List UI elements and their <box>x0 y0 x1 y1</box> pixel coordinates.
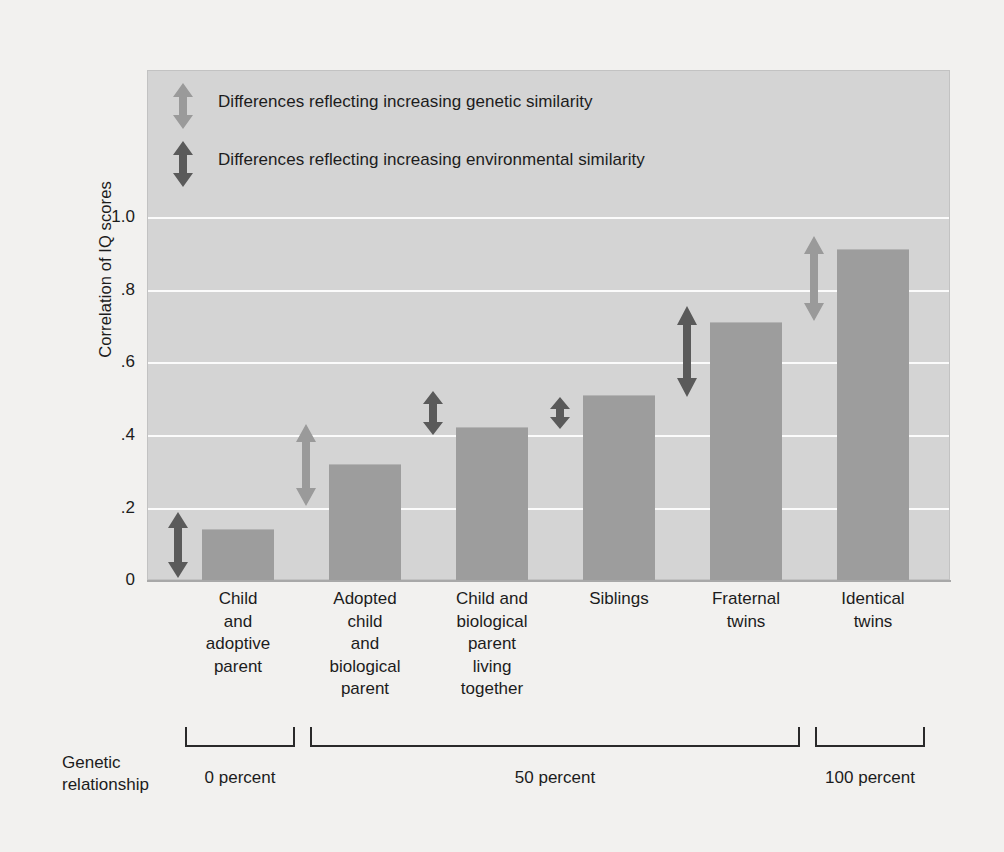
y-tick-2: .8 <box>89 280 135 300</box>
legend-label-genetic: Differences reflecting increasing geneti… <box>218 92 593 112</box>
y-tick-3: .6 <box>89 352 135 372</box>
legend-item-genetic: Differences reflecting increasing geneti… <box>170 78 870 136</box>
bar-group-5 <box>837 249 909 580</box>
bracket-50-percent <box>310 727 800 747</box>
bar-group-3 <box>583 395 655 580</box>
bar-group-1 <box>329 464 401 580</box>
x-axis-categories: Childandadoptiveparent Adoptedchildandbi… <box>147 588 950 718</box>
y-tick-4: .4 <box>89 425 135 445</box>
double-arrow-light-icon <box>170 82 196 130</box>
legend-item-environmental: Differences reflecting increasing enviro… <box>170 136 870 194</box>
category-label-0: Childandadoptiveparent <box>174 588 302 678</box>
y-tick-5: .2 <box>89 498 135 518</box>
category-label-1: Adoptedchildandbiologicalparent <box>301 588 429 701</box>
genetic-arrow-fraternal-identical <box>801 235 827 322</box>
bar-identical-twins <box>837 249 909 580</box>
category-label-3: Siblings <box>555 588 683 611</box>
bar-group-4 <box>710 322 782 580</box>
chart-figure: Correlation of IQ scores 1.0 .8 .6 .4 .2… <box>0 0 1004 852</box>
genetic-relationship-label: Geneticrelationship <box>62 752 149 796</box>
bar-child-and-biological-parent-living-together <box>456 427 528 580</box>
category-label-2: Child andbiologicalparentlivingtogether <box>428 588 556 701</box>
percent-label-2: 100 percent <box>807 768 933 788</box>
y-axis-ticks: 1.0 .8 .6 .4 .2 0 <box>85 0 135 852</box>
environmental-arrow-child-adoptive <box>165 511 191 579</box>
genetic-relationship-values: 0 percent 50 percent 100 percent <box>147 768 950 796</box>
bar-fraternal-twins <box>710 322 782 580</box>
bracket-100-percent <box>815 727 925 747</box>
legend: Differences reflecting increasing geneti… <box>170 78 870 194</box>
bar-group-0 <box>202 529 274 580</box>
bar-child-and-adoptive-parent <box>202 529 274 580</box>
bracket-0-percent <box>185 727 295 747</box>
double-arrow-dark-icon <box>170 140 196 188</box>
legend-label-environmental: Differences reflecting increasing enviro… <box>218 150 645 170</box>
environmental-arrow-fraternal <box>674 305 700 398</box>
category-label-5: Identicaltwins <box>809 588 937 633</box>
environmental-arrow-siblings <box>547 396 573 430</box>
y-tick-6: 0 <box>89 570 135 590</box>
genetic-relationship-brackets <box>147 727 950 751</box>
bar-siblings <box>583 395 655 580</box>
percent-label-1: 50 percent <box>495 768 615 788</box>
percent-label-0: 0 percent <box>180 768 300 788</box>
genetic-arrow-adopted-child <box>293 423 319 507</box>
category-label-4: Fraternaltwins <box>682 588 810 633</box>
environmental-arrow-child-biological <box>420 390 446 436</box>
bar-adopted-child-and-biological-parent <box>329 464 401 580</box>
y-tick-1: 1.0 <box>89 207 135 227</box>
bar-group-2 <box>456 427 528 580</box>
